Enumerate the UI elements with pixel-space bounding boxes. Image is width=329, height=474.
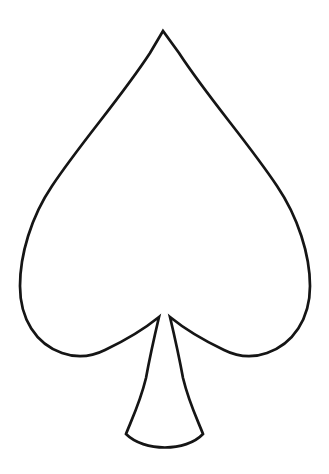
spade-leaf-outline-svg: Outline drawing of a spade shape with a … bbox=[0, 0, 329, 474]
background-rect bbox=[0, 0, 329, 474]
image-canvas: Outline drawing of a spade shape with a … bbox=[0, 0, 329, 474]
